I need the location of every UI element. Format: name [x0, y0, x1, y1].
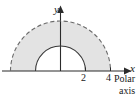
x-tick-label-2: 2 [81, 73, 86, 83]
x-tick-label-4: 4 [106, 73, 111, 83]
y-axis-label: y [54, 4, 59, 15]
polar-axis-annotation-line2: axis [119, 85, 135, 96]
polar-axis-annotation-line1: Polar [114, 73, 135, 84]
polar-region-figure: y x 2 4 Polar axis [0, 0, 140, 108]
